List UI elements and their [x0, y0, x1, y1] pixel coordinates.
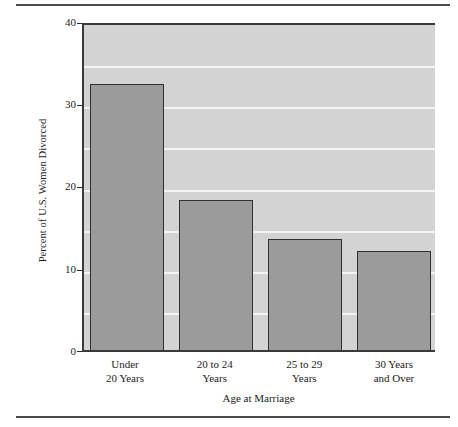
y-axis-title: Percent of U.S. Women Divorced — [37, 81, 48, 301]
y-tick-label-0: 0 — [50, 346, 76, 357]
x-tick-label-3: 25 to 29Years — [267, 357, 341, 385]
y-tick-label-20: 20 — [50, 181, 76, 192]
x-tick-label-3-line2: Years — [267, 371, 341, 385]
x-tick-label-2: 20 to 24Years — [178, 357, 252, 385]
bar-2 — [179, 200, 253, 350]
bottom-horizontal-rule — [16, 416, 450, 418]
x-tick-label-4: 30 Yearsand Over — [357, 357, 431, 385]
plot-area — [82, 23, 435, 352]
x-tick-label-1: Under20 Years — [88, 357, 162, 385]
x-tick-labels-group: Under20 Years20 to 24Years25 to 29Years3… — [82, 357, 435, 385]
bar-chart-figure: Percent of U.S. Women Divorced 40 30 20 … — [0, 0, 458, 427]
x-tick-label-2-line1: 20 to 24 — [197, 358, 233, 370]
x-tick-label-2-line2: Years — [178, 371, 252, 385]
top-horizontal-rule — [16, 4, 450, 6]
x-tick-label-1-line1: Under — [111, 358, 139, 370]
y-tick-label-10: 10 — [50, 264, 76, 275]
x-tick-label-3-line1: 25 to 29 — [286, 358, 322, 370]
bar-3 — [268, 239, 342, 350]
x-axis-title: Age at Marriage — [82, 392, 435, 404]
bars-group — [84, 25, 435, 350]
y-tick-label-40: 40 — [50, 17, 76, 28]
x-tick-label-4-line1: 30 Years — [375, 358, 413, 370]
bar-1 — [90, 84, 164, 350]
y-tick-label-30: 30 — [50, 99, 76, 110]
x-tick-label-4-line2: and Over — [357, 371, 431, 385]
x-tick-label-1-line2: 20 Years — [88, 371, 162, 385]
bar-4 — [357, 251, 431, 350]
